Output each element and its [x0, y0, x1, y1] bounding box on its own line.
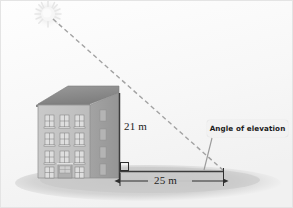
building-door — [57, 163, 73, 178]
figure-canvas: 21 m 25 m Angle of elevation — [0, 0, 293, 208]
diagram-svg — [0, 0, 293, 208]
sun-icon — [34, 0, 62, 28]
height-label: 21 m — [124, 120, 147, 132]
angle-of-elevation-label: Angle of elevation — [210, 124, 286, 133]
building — [36, 86, 119, 178]
base-label: 25 m — [154, 174, 177, 186]
angle-of-elevation-callout: Angle of elevation — [207, 120, 288, 137]
